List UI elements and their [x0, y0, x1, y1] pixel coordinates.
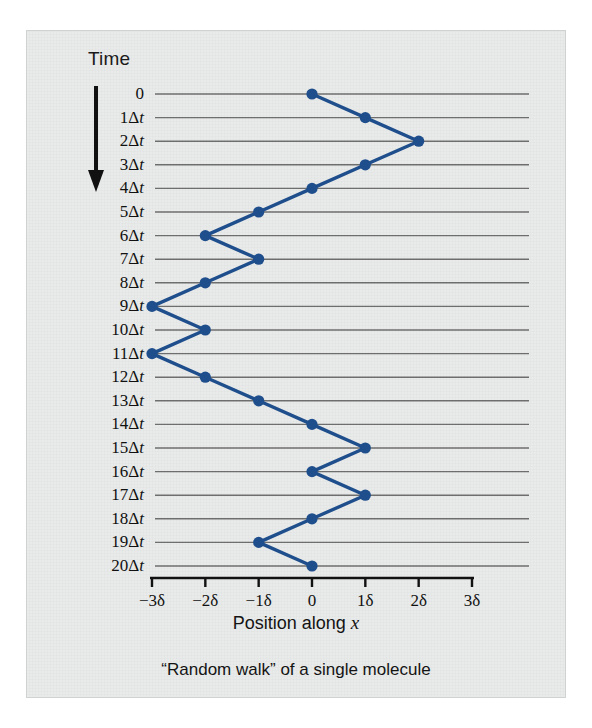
y-axis-tick-label: 8Δt — [84, 274, 144, 291]
data-point — [306, 466, 317, 477]
y-axis-tick-label: 5Δt — [84, 203, 144, 220]
data-point — [200, 372, 211, 383]
data-point — [360, 112, 371, 123]
data-point — [360, 490, 371, 501]
y-axis-tick-label: 12Δt — [84, 368, 144, 385]
y-axis-tick-label: 16Δt — [84, 463, 144, 480]
y-axis-tick-label: 11Δt — [84, 345, 144, 362]
y-axis-tick-label: 6Δt — [84, 227, 144, 244]
y-axis-tick-label: 17Δt — [84, 486, 144, 503]
y-axis-tick-label: 14Δt — [84, 415, 144, 432]
x-axis-tick-label: 0 — [287, 591, 337, 611]
data-point — [146, 348, 157, 359]
y-axis-tick-label: 20Δt — [84, 557, 144, 574]
x-axis-tick-label: 1δ — [340, 591, 390, 611]
data-point — [306, 183, 317, 194]
x-axis — [150, 578, 474, 587]
data-point — [360, 159, 371, 170]
y-axis-tick-label: 1Δt — [84, 109, 144, 126]
figure-caption: “Random walk” of a single molecule — [0, 660, 592, 680]
y-axis-tick-label: 18Δt — [84, 510, 144, 527]
data-point — [306, 419, 317, 430]
data-point — [306, 513, 317, 524]
x-axis-tick-label: 2δ — [394, 591, 444, 611]
y-axis-tick-label: 0 — [84, 85, 144, 102]
y-axis-tick-label: 13Δt — [84, 392, 144, 409]
x-axis-title-variable: x — [351, 612, 359, 633]
data-point — [253, 537, 264, 548]
y-axis-tick-label: 10Δt — [84, 321, 144, 338]
data-point — [200, 324, 211, 335]
data-point — [200, 277, 211, 288]
y-axis-tick-label: 3Δt — [84, 156, 144, 173]
gridlines-group — [155, 94, 529, 566]
data-point — [360, 442, 371, 453]
data-point — [253, 254, 264, 265]
x-axis-title: Position along x — [0, 612, 592, 634]
y-axis-tick-label: 9Δt — [84, 297, 144, 314]
data-point — [253, 395, 264, 406]
x-axis-title-text: Position along — [233, 613, 351, 633]
x-axis-tick-label: −3δ — [127, 591, 177, 611]
y-axis-tick-label: 7Δt — [84, 250, 144, 267]
x-axis-tick-label: −1δ — [234, 591, 284, 611]
y-axis-tick-label: 19Δt — [84, 533, 144, 550]
x-axis-tick-label: −2δ — [180, 591, 230, 611]
data-point — [253, 206, 264, 217]
y-axis-tick-label: 4Δt — [84, 179, 144, 196]
data-point — [413, 136, 424, 147]
data-point — [306, 560, 317, 571]
y-axis-tick-label: 15Δt — [84, 439, 144, 456]
x-axis-tick-label: 3δ — [447, 591, 497, 611]
data-point — [146, 301, 157, 312]
y-axis-tick-label: 2Δt — [84, 132, 144, 149]
figure-root: Time 01Δt2Δt3Δt4Δt5Δt6Δt7Δt8Δt9Δt10Δt11Δ… — [0, 0, 592, 728]
data-point — [306, 88, 317, 99]
data-point — [200, 230, 211, 241]
